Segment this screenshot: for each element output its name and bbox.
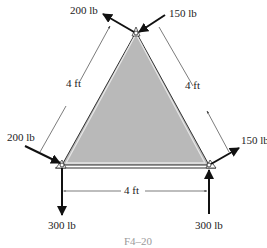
truss-diagram <box>0 0 267 248</box>
force-label-bottom-right: 300 lb <box>195 220 223 231</box>
force-label-top-right: 150 lb <box>169 8 197 19</box>
figure-caption: F4–20 <box>124 236 152 247</box>
dimension-label-left: 4 ft <box>66 78 81 89</box>
force-label-top-left: 200 lb <box>70 5 98 16</box>
force-label-bottom-left: 300 lb <box>48 220 76 231</box>
triangular-plate <box>55 32 216 168</box>
force-label-right-side: 150 lb <box>241 135 267 146</box>
dimension-label-base: 4 ft <box>124 185 139 196</box>
dimension-label-right: 4 ft <box>185 80 200 91</box>
force-label-left-side: 200 lb <box>7 132 35 143</box>
